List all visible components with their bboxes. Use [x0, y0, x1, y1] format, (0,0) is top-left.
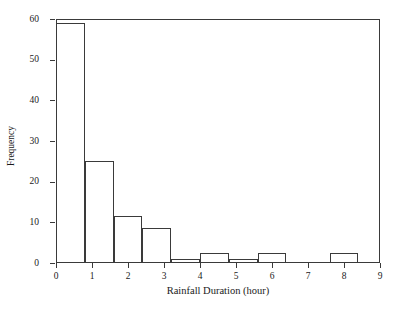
x-axis-title: Rainfall Duration (hour) — [56, 285, 380, 296]
x-axis-tick-label: 7 — [293, 271, 323, 281]
x-axis-tick-mark — [236, 263, 237, 268]
histogram-bar — [258, 253, 287, 263]
x-axis-tick-label: 5 — [221, 271, 251, 281]
y-axis-tick-mark — [50, 19, 55, 20]
histogram-bar — [114, 216, 143, 263]
x-axis-tick-label: 0 — [41, 271, 71, 281]
x-axis-tick-mark — [380, 263, 381, 268]
x-axis-tick-label: 2 — [113, 271, 143, 281]
x-axis-tick-label: 3 — [149, 271, 179, 281]
x-axis-tick-mark — [128, 263, 129, 268]
histogram-bar — [85, 161, 114, 263]
x-axis: Rainfall Duration (hour) 0123456789 — [0, 263, 397, 309]
x-axis-tick-mark — [344, 263, 345, 268]
y-axis-tick-mark — [50, 60, 55, 61]
histogram-bar — [56, 23, 85, 263]
x-axis-tick-label: 1 — [77, 271, 107, 281]
x-axis-tick-mark — [308, 263, 309, 268]
x-axis-tick-label: 4 — [185, 271, 215, 281]
histogram-bar — [330, 253, 359, 263]
x-axis-tick-mark — [200, 263, 201, 268]
x-axis-tick-label: 8 — [329, 271, 359, 281]
histogram-bar — [200, 253, 229, 263]
y-axis-tick-mark — [50, 141, 55, 142]
y-axis-tick-mark — [50, 222, 55, 223]
y-axis-title: Frequency — [6, 96, 16, 196]
y-axis-tick-mark — [50, 182, 55, 183]
histogram-bar — [142, 228, 171, 263]
x-axis-tick-mark — [164, 263, 165, 268]
histogram-figure: Frequency 0102030405060 Rainfall Duratio… — [0, 0, 397, 309]
y-axis-tick-mark — [50, 100, 55, 101]
x-axis-tick-mark — [92, 263, 93, 268]
x-axis-tick-mark — [272, 263, 273, 268]
x-axis-tick-label: 9 — [365, 271, 395, 281]
histogram-bars — [56, 19, 380, 263]
x-axis-tick-label: 6 — [257, 271, 287, 281]
x-axis-tick-mark — [56, 263, 57, 268]
